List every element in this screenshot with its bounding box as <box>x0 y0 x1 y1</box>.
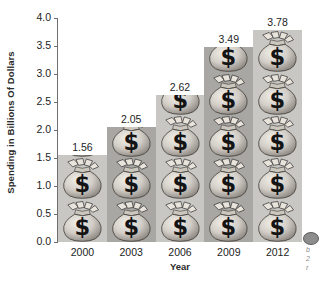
money-bag-icon: $ <box>156 115 205 157</box>
chart-figure: Spending in Billions Of Dollars 0.00.51.… <box>0 0 329 287</box>
y-axis-tick-label: 4.0 <box>36 11 51 23</box>
bar-slot: $ $ <box>107 18 156 242</box>
svg-text:$: $ <box>172 129 188 155</box>
svg-text:$: $ <box>270 214 286 240</box>
svg-text:$: $ <box>221 87 237 113</box>
money-bag-icon: $ <box>156 157 205 199</box>
money-bag-icon: $ <box>58 157 107 199</box>
bar-2006[interactable]: $ $ <box>156 95 205 242</box>
svg-text:$: $ <box>270 87 286 113</box>
y-axis-tick-label: 0.0 <box>36 235 51 247</box>
margin-note: b 2 r <box>303 232 329 282</box>
svg-text:$: $ <box>75 214 91 240</box>
svg-text:$: $ <box>221 47 237 71</box>
money-bag-icon: $ <box>107 200 156 242</box>
money-bag-icon: $ <box>204 200 253 242</box>
margin-note-line-2: 2 <box>306 254 310 263</box>
money-bag-icon: $ <box>107 127 156 157</box>
money-bag-icon: $ <box>204 73 253 115</box>
money-bag-icon: $ <box>58 200 107 242</box>
svg-text:$: $ <box>270 129 286 155</box>
y-axis-tick-label: 2.5 <box>36 95 51 107</box>
bar-slot: $ $ <box>156 18 205 242</box>
y-axis-tick-mark <box>54 242 58 243</box>
y-axis-tick-label: 0.5 <box>36 207 51 219</box>
svg-text:$: $ <box>172 214 188 240</box>
bar-2009[interactable]: $ $ <box>204 47 253 242</box>
bar-2012[interactable]: $ $ <box>253 30 302 242</box>
money-bag-icon: $ <box>204 47 253 73</box>
y-axis-tick-label: 1.0 <box>36 179 51 191</box>
pictogram-stack: $ $ <box>58 155 107 242</box>
svg-text:$: $ <box>123 129 139 155</box>
money-bag-icon: $ <box>253 157 302 199</box>
bar-slot: $ $ <box>58 18 107 242</box>
x-axis-tick-label-2012: 2012 <box>253 246 302 258</box>
money-bag-icon: $ <box>204 157 253 199</box>
y-axis: 0.00.51.01.52.02.53.03.54.0 <box>22 18 58 242</box>
svg-text:$: $ <box>221 214 237 240</box>
svg-text:$: $ <box>123 172 139 198</box>
svg-text:$: $ <box>221 129 237 155</box>
bar-slot: $ $ <box>204 18 253 242</box>
margin-note-text: b 2 r <box>306 245 310 272</box>
svg-text:$: $ <box>270 45 286 71</box>
money-bag-icon: $ <box>107 157 156 199</box>
money-bag-icon: $ <box>253 115 302 157</box>
money-bag-icon: $ <box>253 200 302 242</box>
pictogram-stack: $ $ <box>204 47 253 242</box>
money-bag-icon: $ <box>156 200 205 242</box>
pictogram-stack: $ $ <box>156 95 205 242</box>
x-axis-title: Year <box>58 261 302 272</box>
y-axis-title: Spending in Billions Of Dollars <box>0 0 20 245</box>
money-bag-icon: $ <box>204 115 253 157</box>
y-axis-title-text: Spending in Billions Of Dollars <box>5 51 16 193</box>
money-bag-icon: $ <box>253 30 302 72</box>
svg-text:$: $ <box>270 172 286 198</box>
svg-text:$: $ <box>221 172 237 198</box>
pictogram-stack: $ $ <box>107 127 156 242</box>
margin-note-line-1: b <box>306 245 310 254</box>
x-axis-tick-label-2006: 2006 <box>156 246 205 258</box>
y-axis-tick-label: 2.0 <box>36 123 51 135</box>
svg-text:$: $ <box>75 155 91 156</box>
pictogram-stack: $ $ <box>253 30 302 242</box>
y-axis-tick-label: 1.5 <box>36 151 51 163</box>
svg-text:$: $ <box>123 214 139 240</box>
margin-note-bullet-icon <box>303 232 319 245</box>
bar-slot: $ $ <box>253 18 302 242</box>
x-axis-tick-label-2003: 2003 <box>107 246 156 258</box>
bar-2003[interactable]: $ $ <box>107 127 156 242</box>
margin-note-line-3: r <box>306 263 310 272</box>
bar-value-label-2009: 3.49 <box>204 33 253 45</box>
x-axis-tick-label-2000: 2000 <box>58 246 107 258</box>
bar-value-label-2012: 3.78 <box>253 16 302 28</box>
x-axis-tick-label-2009: 2009 <box>204 246 253 258</box>
y-axis-tick-label: 3.5 <box>36 39 51 51</box>
svg-text:$: $ <box>75 172 91 198</box>
y-axis-tick-label: 3.0 <box>36 67 51 79</box>
money-bag-icon: $ <box>156 95 205 115</box>
money-bag-icon: $ <box>253 73 302 115</box>
svg-text:$: $ <box>172 95 188 113</box>
plot-area: $ $ <box>58 18 302 242</box>
bar-2000[interactable]: $ $ <box>58 155 107 242</box>
bar-value-label-2000: 1.56 <box>58 141 107 153</box>
bar-value-label-2003: 2.05 <box>107 113 156 125</box>
bar-value-label-2006: 2.62 <box>156 81 205 93</box>
svg-text:$: $ <box>172 172 188 198</box>
